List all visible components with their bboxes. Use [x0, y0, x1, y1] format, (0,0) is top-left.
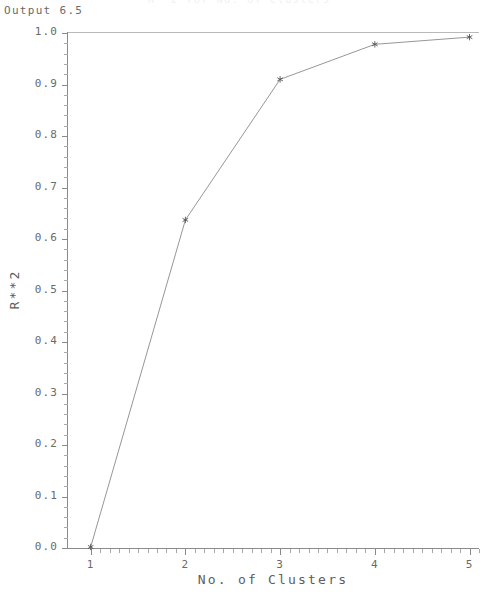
y-axis-title: R**2	[7, 250, 22, 330]
data-point-marker	[88, 544, 94, 550]
x-tick-minor	[479, 549, 480, 550]
series-markers	[88, 34, 472, 550]
x-tick-mark	[479, 549, 480, 553]
series-line	[91, 37, 470, 547]
x-axis-title: No. of Clusters	[67, 572, 479, 587]
